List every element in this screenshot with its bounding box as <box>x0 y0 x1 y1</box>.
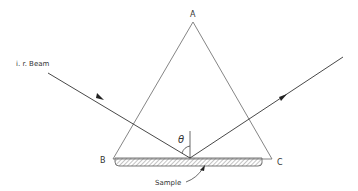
apex-label: A <box>190 10 196 19</box>
beam-label: i. r. Beam <box>16 60 49 68</box>
prism-triangle <box>113 22 272 159</box>
vertex-b-label: B <box>100 156 106 165</box>
sample-leader <box>186 165 205 182</box>
incident-arrow-icon <box>96 93 104 100</box>
vertex-c-label: C <box>277 158 283 167</box>
incident-beam <box>48 73 190 158</box>
sample-label: Sample <box>155 179 181 187</box>
reflected-beam <box>190 57 343 158</box>
angle-theta-label: θ <box>178 134 184 145</box>
reflected-arrow-icon <box>279 94 287 101</box>
atr-diagram: A B C i. r. Beam θ Sample <box>0 0 358 191</box>
